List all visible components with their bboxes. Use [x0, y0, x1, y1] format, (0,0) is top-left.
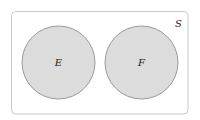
set-f-label: F: [137, 57, 146, 68]
venn-diagram: E F S: [0, 0, 200, 120]
sample-space-label: S: [175, 18, 182, 29]
set-e-label: E: [54, 57, 63, 68]
